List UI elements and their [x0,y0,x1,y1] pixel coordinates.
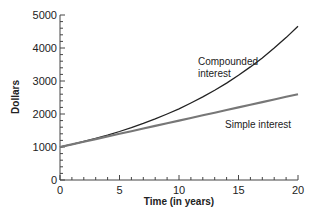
axes [60,15,298,180]
compounded-annotation-line1: Compounded [198,56,258,67]
y-tick-label: 1000 [33,141,57,153]
x-tick-label: 10 [173,184,185,196]
y-tick-label: 3000 [33,75,57,87]
x-tick-label: 20 [292,184,304,196]
simple-annotation: Simple interest [225,119,291,130]
chart: 01000200030004000500005101520 Time (in y… [0,0,322,222]
x-tick-label: 15 [232,184,244,196]
x-tick-label: 5 [116,184,122,196]
x-axis-title: Time (in years) [144,196,214,207]
y-tick-label: 2000 [33,108,57,120]
y-tick-label: 5000 [33,9,57,21]
y-axis-title: Dollars [10,80,21,114]
y-tick-label: 4000 [33,42,57,54]
x-tick-label: 0 [57,184,63,196]
compounded-annotation-line2: interest [198,68,231,79]
